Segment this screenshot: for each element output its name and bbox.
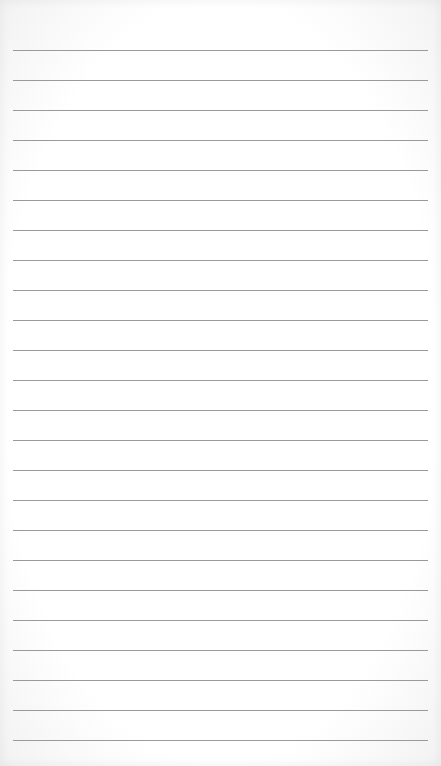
ruled-line <box>13 410 428 411</box>
ruled-line <box>13 260 428 261</box>
ruled-line <box>13 740 428 741</box>
lined-paper <box>0 0 441 766</box>
ruled-line <box>13 680 428 681</box>
ruled-line <box>13 590 428 591</box>
ruled-line <box>13 140 428 141</box>
ruled-line <box>13 230 428 231</box>
ruled-line <box>13 50 428 51</box>
ruled-line <box>13 290 428 291</box>
ruled-line <box>13 320 428 321</box>
ruled-line <box>13 110 428 111</box>
ruled-line <box>13 200 428 201</box>
ruled-line <box>13 170 428 171</box>
ruled-line <box>13 500 428 501</box>
ruled-line <box>13 530 428 531</box>
ruled-line <box>13 440 428 441</box>
ruled-line <box>13 710 428 711</box>
ruled-line <box>13 560 428 561</box>
ruled-line <box>13 620 428 621</box>
ruled-line <box>13 380 428 381</box>
ruled-line <box>13 350 428 351</box>
ruled-line <box>13 470 428 471</box>
ruled-line <box>13 80 428 81</box>
ruled-line <box>13 650 428 651</box>
